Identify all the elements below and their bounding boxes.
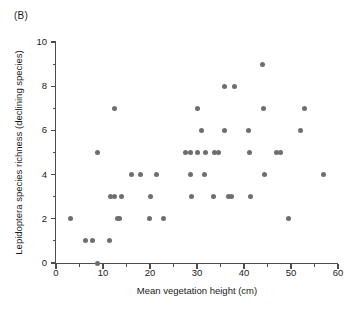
scatter-point bbox=[183, 150, 188, 155]
scatter-point bbox=[232, 84, 237, 89]
x-tick-minor bbox=[314, 264, 315, 267]
scatter-point bbox=[112, 194, 117, 199]
x-tick-minor bbox=[126, 264, 127, 267]
y-tick-major bbox=[51, 41, 56, 42]
x-axis-title: Mean vegetation height (cm) bbox=[56, 285, 338, 296]
x-tick-minor bbox=[220, 264, 221, 267]
scatter-point bbox=[188, 172, 193, 177]
scatter-point bbox=[321, 172, 326, 177]
scatter-point bbox=[90, 238, 95, 243]
scatter-point bbox=[286, 216, 291, 221]
scatter-point bbox=[247, 150, 252, 155]
scatter-point bbox=[95, 261, 100, 266]
panel-label: (B) bbox=[14, 10, 28, 21]
x-tick-label: 20 bbox=[138, 267, 162, 278]
scatter-point bbox=[119, 194, 124, 199]
scatter-point bbox=[68, 216, 73, 221]
scatter-point bbox=[138, 172, 143, 177]
x-tick-label: 40 bbox=[232, 267, 256, 278]
y-tick-label: 10 bbox=[27, 36, 47, 47]
scatter-point bbox=[262, 172, 267, 177]
scatter-point bbox=[216, 150, 221, 155]
scatter-point bbox=[278, 150, 283, 155]
scatter-point bbox=[147, 216, 152, 221]
y-axis-title: Lepidoptera species richness (declining … bbox=[13, 22, 24, 283]
scatter-point bbox=[107, 238, 112, 243]
y-tick-label: 6 bbox=[27, 124, 47, 135]
x-tick-label: 30 bbox=[185, 267, 209, 278]
scatter-point bbox=[202, 172, 207, 177]
scatter-point bbox=[260, 62, 265, 67]
scatter-point bbox=[83, 238, 88, 243]
x-tick-label: 60 bbox=[326, 267, 350, 278]
scatter-point bbox=[222, 128, 227, 133]
scatter-point bbox=[95, 150, 100, 155]
scatter-point bbox=[246, 128, 251, 133]
x-tick-minor bbox=[79, 264, 80, 267]
y-tick-major bbox=[51, 174, 56, 175]
scatter-point bbox=[195, 150, 200, 155]
scatter-point bbox=[189, 194, 194, 199]
scatter-point bbox=[154, 172, 159, 177]
y-tick-label: 4 bbox=[27, 169, 47, 180]
scatter-point bbox=[117, 216, 122, 221]
y-tick-major bbox=[51, 130, 56, 131]
chart-figure: (B) 0246810 0102030405060 Lepidoptera sp… bbox=[0, 0, 354, 311]
scatter-point bbox=[203, 150, 208, 155]
plot-area bbox=[56, 42, 338, 263]
x-tick-minor bbox=[173, 264, 174, 267]
scatter-point bbox=[148, 194, 153, 199]
y-tick-label: 2 bbox=[27, 213, 47, 224]
x-tick-label: 0 bbox=[44, 267, 68, 278]
y-tick-major bbox=[51, 218, 56, 219]
x-tick-label: 50 bbox=[279, 267, 303, 278]
scatter-point bbox=[199, 128, 204, 133]
scatter-point bbox=[298, 128, 303, 133]
scatter-point bbox=[112, 106, 117, 111]
scatter-point bbox=[229, 194, 234, 199]
x-tick-minor bbox=[267, 264, 268, 267]
scatter-point bbox=[248, 194, 253, 199]
scatter-point bbox=[188, 150, 193, 155]
scatter-point bbox=[161, 216, 166, 221]
scatter-point bbox=[211, 194, 216, 199]
x-tick-label: 10 bbox=[91, 267, 115, 278]
scatter-point bbox=[261, 106, 266, 111]
scatter-point bbox=[129, 172, 134, 177]
y-axis-title-wrap: Lepidoptera species richness (declining … bbox=[0, 0, 1, 1]
scatter-point bbox=[302, 106, 307, 111]
scatter-point bbox=[195, 106, 200, 111]
y-tick-label: 8 bbox=[27, 80, 47, 91]
y-tick-major bbox=[51, 86, 56, 87]
scatter-point bbox=[222, 84, 227, 89]
